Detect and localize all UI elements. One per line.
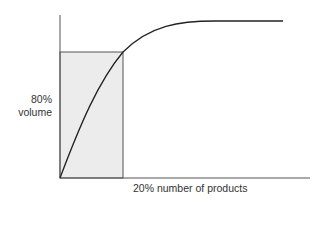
highlight-rectangle bbox=[60, 52, 123, 178]
x-axis-label: 20% number of products bbox=[133, 182, 247, 194]
y-label-percent: 80% bbox=[0, 93, 52, 106]
y-label-text: volume bbox=[0, 106, 52, 119]
y-axis-label: 80% volume bbox=[0, 93, 52, 119]
